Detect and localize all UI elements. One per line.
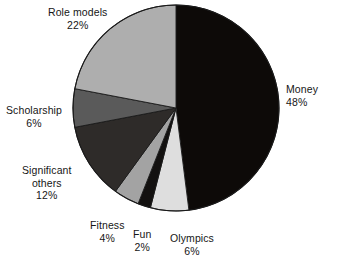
slice-label-money: Money 48% <box>286 83 318 108</box>
slice-label-significant-others-name-line2: others <box>22 177 72 190</box>
slice-label-fitness: Fitness 4% <box>90 219 125 244</box>
pie-slice-money <box>176 5 279 210</box>
slice-label-significant-others-name-line1: Significant <box>22 164 72 177</box>
slice-label-fitness-name: Fitness <box>90 219 125 232</box>
slice-label-scholarship-name: Scholarship <box>6 104 62 117</box>
pie-chart-canvas <box>0 0 339 269</box>
slice-label-significant-others: Significant others 12% <box>22 164 72 202</box>
slice-label-significant-others-pct: 12% <box>22 189 72 202</box>
slice-label-scholarship: Scholarship 6% <box>6 104 62 129</box>
slice-label-fun-pct: 2% <box>133 241 151 254</box>
slice-label-money-pct: 48% <box>286 96 318 109</box>
slice-label-olympics-name: Olympics <box>170 232 214 245</box>
slice-label-fitness-pct: 4% <box>90 232 125 245</box>
slice-label-fun: Fun 2% <box>133 228 151 253</box>
pie-slice-group <box>73 5 279 211</box>
pie-chart: Role models 22% Money 48% Scholarship 6%… <box>0 0 339 269</box>
slice-label-role-models-pct: 22% <box>48 19 107 32</box>
slice-label-role-models: Role models 22% <box>48 6 107 31</box>
slice-label-fun-name: Fun <box>133 228 151 241</box>
slice-label-money-name: Money <box>286 83 318 96</box>
slice-label-olympics: Olympics 6% <box>170 232 214 257</box>
slice-label-olympics-pct: 6% <box>170 245 214 258</box>
slice-label-scholarship-pct: 6% <box>6 117 62 130</box>
slice-label-role-models-name: Role models <box>48 6 107 19</box>
